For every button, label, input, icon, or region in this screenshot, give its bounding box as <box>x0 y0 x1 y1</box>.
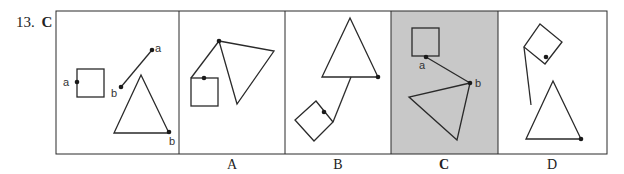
point-a-label: a <box>63 76 70 88</box>
point-dot <box>376 75 381 80</box>
point-b-dot <box>167 130 172 135</box>
point-b-label: b <box>111 87 117 99</box>
square-shape <box>295 101 333 141</box>
point-dot <box>579 137 584 142</box>
triangle-shape <box>322 18 378 77</box>
point-dot <box>322 110 327 115</box>
option-label-a[interactable]: A <box>222 157 242 173</box>
triangle-shape <box>219 41 274 104</box>
point-a-dot <box>75 80 80 85</box>
option-label-d[interactable]: D <box>542 157 562 173</box>
panel-d <box>524 24 581 139</box>
triangle-shape <box>526 81 581 139</box>
point-b-label: b <box>169 135 175 147</box>
segment-shape <box>121 50 152 87</box>
point-a-label: a <box>419 59 426 71</box>
panel-c-highlight <box>391 11 498 154</box>
point-dot <box>544 55 549 60</box>
panel-b <box>295 18 378 141</box>
connector-line <box>333 77 351 122</box>
square-shape <box>77 69 104 97</box>
point-a-label: a <box>155 42 162 54</box>
point-b-dot <box>119 85 124 90</box>
option-label-b[interactable]: B <box>328 157 348 173</box>
point-b-dot <box>468 81 473 86</box>
figure-grid: a a b b a b <box>0 0 624 174</box>
point-dot <box>202 76 207 81</box>
point-b-label: b <box>475 77 481 89</box>
connector-line <box>191 41 219 78</box>
point-a-dot <box>150 48 155 53</box>
triangle-shape <box>114 75 169 133</box>
panel-question <box>77 50 169 133</box>
connector-line <box>524 47 531 105</box>
option-label-c[interactable]: C <box>434 157 454 173</box>
square-shape <box>191 78 218 106</box>
point-dot <box>217 39 222 44</box>
panel-a <box>191 41 274 106</box>
square-shape <box>524 24 562 64</box>
